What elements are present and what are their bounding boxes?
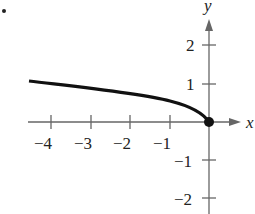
y-tick-label: 1 <box>186 75 195 94</box>
function-graph: x y −4 −3 −2 −1 2 1 −1 −2 <box>0 0 255 214</box>
y-axis-label: y <box>202 0 212 15</box>
y-axis-arrow-icon <box>205 19 213 31</box>
x-tick-label: −2 <box>113 134 131 153</box>
function-curve <box>29 81 209 122</box>
y-tick-label: −2 <box>174 190 192 209</box>
endpoint-dot <box>204 117 214 127</box>
x-axis-label: x <box>245 113 254 132</box>
y-tick-label: −1 <box>174 152 192 171</box>
x-tick-label: −4 <box>34 134 53 153</box>
x-tick-label: −3 <box>74 134 92 153</box>
y-tick-label: 2 <box>186 36 195 55</box>
x-tick-label: −1 <box>153 134 171 153</box>
problem-marker <box>2 9 6 13</box>
x-axis-arrow-icon <box>229 118 241 126</box>
